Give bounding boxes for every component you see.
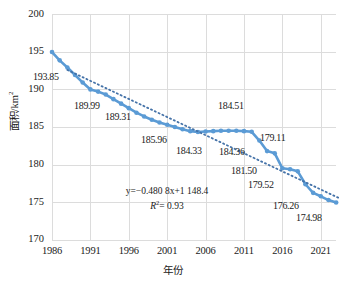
chart-container: 200 195 190 185 180 175 170 面积/km2 1986 — [0, 0, 346, 284]
x-tick-2011: 2011 — [224, 245, 264, 256]
point-label-185-96: 185.96 — [141, 135, 167, 145]
r2-value: = 0.93 — [159, 201, 183, 211]
point-label-193-85: 193.85 — [33, 72, 59, 82]
y-axis-title: 面积/km2 — [6, 77, 21, 147]
series-marker — [249, 130, 254, 135]
series-marker — [242, 129, 247, 134]
series-marker — [134, 110, 139, 115]
y-tick-170: 170 — [14, 234, 44, 244]
series-marker — [226, 128, 231, 133]
regression-r2-line: R2= 0.93 — [112, 197, 222, 212]
y-tick-195: 195 — [14, 46, 44, 56]
point-label-184-36: 184.36 — [219, 147, 245, 157]
y-tick-180: 180 — [14, 159, 44, 169]
series-marker — [96, 89, 101, 94]
series-marker — [203, 129, 208, 134]
trendline — [67, 70, 340, 199]
series-marker — [165, 122, 170, 127]
series-marker — [111, 97, 116, 102]
series-marker — [188, 129, 193, 134]
regression-equation: y=−0.480 8x+1 148.4 R2= 0.93 — [112, 185, 222, 212]
x-tick-2001: 2001 — [147, 245, 187, 256]
series-marker — [173, 125, 178, 130]
series-marker — [334, 200, 339, 205]
regression-equation-line: y=−0.480 8x+1 148.4 — [112, 185, 222, 197]
series-marker — [295, 169, 300, 174]
series-marker — [142, 114, 147, 119]
series-marker — [103, 92, 108, 97]
point-label-189-31: 189.31 — [105, 112, 131, 122]
x-tick-1996: 1996 — [109, 245, 149, 256]
gridline-h-170 — [52, 240, 336, 241]
point-label-181-50: 181.50 — [231, 166, 257, 176]
series-marker — [88, 87, 93, 92]
x-tick-2021: 2021 — [301, 245, 341, 256]
series-marker — [157, 120, 162, 125]
point-label-184-51: 184.51 — [218, 101, 244, 111]
point-label-184-33: 184.33 — [176, 146, 202, 156]
point-label-179-11: 179.11 — [260, 133, 285, 143]
x-tick-1986: 1986 — [32, 245, 72, 256]
series-marker — [57, 58, 62, 63]
series-marker — [211, 129, 216, 134]
series-marker — [311, 191, 316, 196]
x-axis-title: 年份 — [0, 262, 346, 277]
y-tick-175: 175 — [14, 197, 44, 207]
x-tick-1991: 1991 — [70, 245, 110, 256]
series-marker — [50, 50, 55, 55]
series-marker — [326, 198, 331, 203]
y-axis-title-text: 面积/km — [9, 95, 20, 131]
series-marker — [180, 127, 185, 132]
point-label-179-52: 179.52 — [248, 180, 274, 190]
point-label-174-98: 174.98 — [296, 213, 322, 223]
series-marker — [219, 128, 224, 133]
series-marker — [119, 101, 124, 106]
series-marker — [272, 151, 277, 156]
point-label-189-99: 189.99 — [74, 101, 100, 111]
x-tick-2016: 2016 — [262, 245, 302, 256]
series-line — [52, 52, 336, 202]
point-label-176-26: 176.26 — [273, 201, 299, 211]
series-marker — [234, 128, 239, 133]
series-marker — [265, 149, 270, 154]
series-marker — [288, 167, 293, 172]
series-marker — [127, 106, 132, 111]
y-tick-200: 200 — [14, 9, 44, 19]
x-tick-2006: 2006 — [186, 245, 226, 256]
series-marker — [80, 80, 85, 85]
series-marker — [150, 117, 155, 122]
y-axis-title-superscript: 2 — [7, 92, 15, 96]
series-marker — [319, 194, 324, 199]
